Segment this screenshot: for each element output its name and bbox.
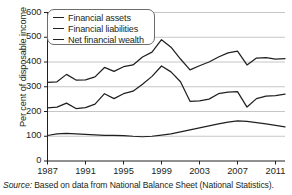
x-tick-label: 2003 <box>183 166 217 176</box>
legend-line-icon <box>53 39 64 40</box>
x-tick-label: 1995 <box>107 166 141 176</box>
chart-plot-area: Per cent of disposable income 0100200300… <box>0 0 291 175</box>
source-caption: Source: Based on data from National Bala… <box>3 180 274 190</box>
x-tick-label: 2011 <box>259 166 292 176</box>
legend-label: Financial assets <box>68 13 131 23</box>
x-tick-label: 1999 <box>145 166 179 176</box>
source-label: Source: <box>3 180 32 190</box>
y-tick-label: 300 <box>16 81 42 91</box>
x-tick-label: 1987 <box>31 166 65 176</box>
y-tick-label: 600 <box>16 7 42 17</box>
y-tick-label: 200 <box>16 106 42 116</box>
y-tick-label: 0 <box>16 155 42 165</box>
legend-label: Financial liabilities <box>68 24 138 34</box>
series-line-2 <box>48 121 286 137</box>
data-series-group <box>48 40 286 137</box>
series-line-1 <box>48 66 286 109</box>
chart-legend: Financial assets Financial liabilities N… <box>47 9 155 45</box>
y-tick-label: 400 <box>16 56 42 66</box>
y-tick-label: 100 <box>16 130 42 140</box>
legend-line-icon <box>53 28 64 29</box>
y-tick-label: 500 <box>16 31 42 41</box>
legend-item-financial-assets: Financial assets <box>53 12 131 23</box>
series-line-0 <box>48 40 286 83</box>
x-tick-label: 1991 <box>69 166 103 176</box>
legend-item-net-financial-wealth: Net financial wealth <box>53 34 144 45</box>
legend-item-financial-liabilities: Financial liabilities <box>53 23 138 34</box>
source-text: Based on data from National Balance Shee… <box>32 180 274 190</box>
y-axis-title: Per cent of disposable income <box>18 0 28 142</box>
legend-label: Net financial wealth <box>68 35 144 45</box>
financial-balance-sheet-figure: Per cent of disposable income 0100200300… <box>0 0 291 195</box>
x-tick-label: 2007 <box>221 166 255 176</box>
legend-line-icon <box>53 17 64 18</box>
x-tickmarks-group <box>48 161 276 165</box>
